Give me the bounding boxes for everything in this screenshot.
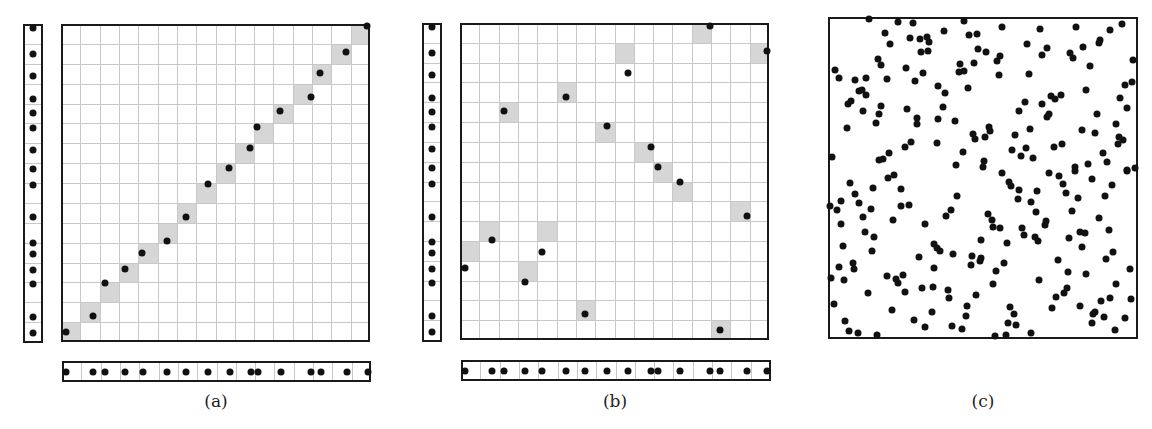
grid-line: [462, 162, 767, 163]
scatter-point: [1104, 159, 1111, 166]
scatter-point: [1024, 41, 1031, 48]
strip-line: [424, 320, 440, 321]
scatter-point: [1044, 114, 1051, 121]
strip-line: [693, 362, 694, 379]
grid-line: [462, 142, 767, 143]
strip-dot: [429, 313, 436, 320]
strip-dot: [255, 368, 262, 375]
scatter-point: [1106, 227, 1113, 234]
scatter-point: [895, 19, 902, 26]
scatter-point: [1042, 222, 1049, 229]
scatter-point: [1018, 153, 1025, 160]
strip-dot: [563, 367, 570, 374]
strip-dot: [429, 24, 436, 31]
shaded-cell: [537, 221, 556, 241]
scatter-point: [1011, 311, 1018, 318]
strip-dot: [539, 367, 546, 374]
scatter-point: [971, 60, 978, 67]
scatter-point: [1026, 71, 1033, 78]
scatter-point: [890, 217, 897, 224]
scatter-point: [1117, 95, 1124, 102]
strip-dot: [63, 368, 70, 375]
strip-dot: [429, 109, 436, 116]
strip-line: [352, 363, 353, 380]
scatter-point: [898, 186, 905, 193]
scatter-point: [1130, 57, 1137, 64]
strip-dot: [140, 368, 147, 375]
scatter-point: [902, 289, 909, 296]
grid-point: [308, 94, 315, 101]
strip-dot: [764, 367, 771, 374]
scatter-point: [934, 140, 941, 147]
strip-dot: [429, 329, 436, 336]
strip-line: [25, 104, 41, 105]
strip-line: [25, 84, 41, 85]
strip-dot: [30, 51, 37, 58]
grid-line: [63, 84, 368, 85]
scatter-point: [1007, 304, 1014, 311]
strip-line: [217, 363, 218, 380]
strip-line: [616, 362, 617, 379]
strip-line: [197, 363, 198, 380]
strip-dot: [30, 166, 37, 173]
scatter-point: [935, 116, 942, 123]
scatter-point: [1013, 322, 1020, 329]
strip-line: [178, 363, 179, 380]
scatter-point: [948, 207, 955, 214]
scatter-point: [852, 77, 859, 84]
strip-dot: [30, 281, 37, 288]
scatter-point: [974, 31, 981, 38]
scatter-point: [1009, 147, 1016, 154]
scatter-point: [884, 273, 891, 280]
strip-line: [424, 142, 440, 143]
grid-point: [604, 123, 611, 130]
scatter-point: [828, 275, 835, 282]
scatter-point: [1124, 105, 1131, 112]
scatter-point: [930, 284, 937, 291]
scatter-point: [1115, 141, 1122, 148]
scatter-point: [1087, 63, 1094, 70]
panel-c-label: (c): [972, 391, 995, 411]
strip-dot: [717, 367, 724, 374]
strip-dot: [604, 367, 611, 374]
scatter-point: [1129, 79, 1136, 86]
grid-point: [226, 165, 233, 172]
scatter-point: [926, 39, 933, 46]
scatter-point: [977, 258, 984, 265]
scatter-point: [1027, 126, 1034, 133]
scatter-point: [1005, 320, 1012, 327]
grid-line: [462, 300, 767, 301]
grid-point: [343, 49, 350, 56]
grid-point: [102, 280, 109, 287]
strip-dot: [429, 124, 436, 131]
scatter-point: [975, 46, 982, 53]
scatter-point: [1103, 256, 1110, 263]
scatter-point: [935, 83, 942, 90]
scatter-point: [922, 221, 929, 228]
scatter-point: [860, 214, 867, 221]
strip-line: [25, 263, 41, 264]
strip-dot: [205, 368, 212, 375]
scatter-point: [925, 48, 932, 55]
scatter-point: [1090, 311, 1097, 318]
strip-line: [424, 201, 440, 202]
scatter-point: [1089, 320, 1096, 327]
scatter-point: [1085, 161, 1092, 168]
scatter-point: [878, 62, 885, 69]
scatter-point: [1127, 266, 1134, 273]
scatter-point: [952, 118, 959, 125]
scatter-point: [1124, 168, 1131, 175]
scatter-point: [982, 134, 989, 141]
scatter-point: [1061, 290, 1068, 297]
strip-line: [159, 363, 160, 380]
scatter-point: [957, 61, 964, 68]
scatter-point: [1001, 260, 1008, 267]
scatter-point: [949, 323, 956, 330]
scatter-point: [953, 162, 960, 169]
grid-point: [563, 94, 570, 101]
scatter-point: [960, 149, 967, 156]
scatter-point: [959, 326, 966, 333]
scatter-point: [1016, 187, 1023, 194]
scatter-point: [931, 265, 938, 272]
scatter-point: [978, 237, 985, 244]
